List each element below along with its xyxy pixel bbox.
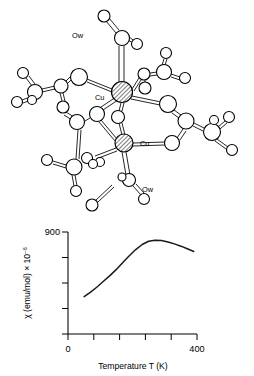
atom-oxygen <box>115 31 130 46</box>
atom-oxygen <box>18 68 29 79</box>
label-cu-bottom: Cu <box>140 139 149 148</box>
atom-oxygen <box>12 97 23 108</box>
atom-oxygen <box>118 173 126 181</box>
susceptibility-curve <box>84 240 194 296</box>
atom-oxygen <box>160 96 177 113</box>
x-tick-label-min: 0 <box>65 344 70 354</box>
atom-oxygen <box>227 145 238 156</box>
atom-oxygen <box>161 48 172 59</box>
atom-oxygen <box>165 136 180 151</box>
x-tick-group <box>68 334 197 340</box>
atom-oxygen <box>132 39 143 50</box>
atom-oxygen <box>138 68 150 80</box>
x-tick-label-max: 400 <box>189 344 204 354</box>
y-axis-title: χ (emu/mol) × 10–6 <box>22 247 32 319</box>
atom-oxygen <box>224 112 235 123</box>
atom-carbon <box>66 159 82 175</box>
atom-oxygen <box>90 107 105 122</box>
atom-oxygen <box>180 73 191 84</box>
chart-axes <box>68 232 197 334</box>
atom-oxygen <box>112 111 125 124</box>
atom-copper-2 <box>115 134 133 152</box>
atom-carbon <box>204 124 221 141</box>
atom-copper-1 <box>112 82 133 103</box>
atom-oxygen <box>71 186 82 197</box>
atom-oxygen <box>210 116 219 125</box>
atom-oxygen <box>139 194 150 205</box>
susceptibility-chart-panel: 900 0 400 Temperature T (K) χ (emu/mol) … <box>0 214 254 376</box>
atom-oxygen <box>139 82 151 94</box>
label-ow-top: Ow <box>72 31 84 40</box>
scientific-figure: Ow Cu Cu Ow <box>0 0 254 376</box>
y-axis-title-exponent: –6 <box>22 247 28 254</box>
molecule-svg: Ow Cu Cu Ow <box>0 0 254 214</box>
y-axis-title-group: χ (emu/mol) × 10–6 <box>22 247 32 319</box>
atom-carbon <box>178 113 194 129</box>
label-cu-top: Cu <box>95 93 104 102</box>
atom-oxygen <box>98 10 110 22</box>
molecular-structure-panel: Ow Cu Cu Ow <box>0 0 254 214</box>
x-axis-title: Temperature T (K) <box>98 361 168 371</box>
atom-group <box>12 10 238 211</box>
atom-oxygen <box>28 96 37 105</box>
atom-oxygen <box>89 160 98 169</box>
atom-carbon <box>54 79 68 93</box>
atom-carbon <box>157 65 172 80</box>
atom-oxygen <box>86 199 98 211</box>
atom-oxygen <box>70 115 85 130</box>
y-tick-label-max: 900 <box>45 227 60 237</box>
atom-oxygen <box>57 101 69 113</box>
y-tick-group <box>62 232 68 334</box>
atom-oxygen <box>42 155 53 166</box>
label-ow-bottom: Ow <box>142 185 154 194</box>
atom-oxygen <box>71 69 88 86</box>
chart-svg: 900 0 400 Temperature T (K) χ (emu/mol) … <box>0 214 254 376</box>
